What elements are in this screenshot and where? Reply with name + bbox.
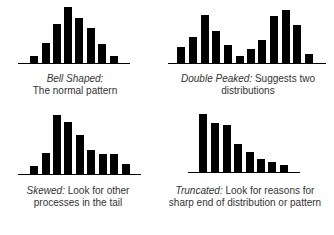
histogram-bar xyxy=(257,159,265,172)
caption-desc: Look for other xyxy=(65,185,129,196)
caption-term: Double Peaked: xyxy=(181,73,252,84)
caption-desc: Suggests two xyxy=(252,73,315,84)
histogram-bar xyxy=(122,164,130,174)
histogram-bar xyxy=(42,43,50,63)
histogram-bar xyxy=(30,56,38,63)
truncated-histogram xyxy=(188,114,300,173)
histogram-bar xyxy=(305,54,313,63)
histogram-bar xyxy=(282,10,290,63)
histogram-bar xyxy=(211,123,219,172)
skewed-caption: Skewed: Look for other processes in the … xyxy=(14,185,142,209)
caption-line2: distributions xyxy=(166,85,330,97)
truncated-caption: Truncated: Look for reasons for sharp en… xyxy=(156,185,334,209)
histogram-bar xyxy=(87,28,95,63)
histogram-bar xyxy=(234,144,242,172)
histogram-bar xyxy=(258,40,266,63)
histogram-bar xyxy=(293,25,301,63)
histogram-bar xyxy=(98,44,106,63)
histogram-bar xyxy=(199,114,207,172)
histogram-bar xyxy=(212,31,220,63)
histogram-bar xyxy=(246,152,254,172)
caption-line2: sharp end of distribution or pattern xyxy=(156,197,334,209)
bell-shaped-caption: Bell Shaped: The normal pattern xyxy=(14,73,136,97)
histogram-bar xyxy=(64,122,72,174)
skewed-histogram xyxy=(18,115,141,175)
caption-desc: Look for reasons for xyxy=(223,185,315,196)
histogram-bar xyxy=(177,47,185,63)
caption-term: Bell Shaped: xyxy=(47,73,104,84)
histogram-bar xyxy=(75,18,83,63)
caption-line2: The normal pattern xyxy=(14,85,136,97)
histogram-bar xyxy=(42,153,50,174)
histogram-bar xyxy=(110,154,118,174)
histogram-bar xyxy=(280,165,288,172)
histogram-bar xyxy=(270,16,278,63)
histogram-bar xyxy=(53,115,61,174)
histogram-bar xyxy=(53,24,61,63)
histogram-bar xyxy=(99,154,107,174)
histogram-bar xyxy=(64,7,72,63)
caption-term: Truncated: xyxy=(176,185,223,196)
histogram-bar xyxy=(189,37,197,63)
histogram-bar xyxy=(30,166,38,174)
histogram-bar xyxy=(247,49,255,63)
histogram-bar xyxy=(87,150,95,174)
histogram-bar xyxy=(223,125,231,172)
histogram-bar xyxy=(110,56,118,63)
caption-line2: processes in the tail xyxy=(14,197,142,209)
caption-term: Skewed: xyxy=(27,185,65,196)
histogram-bar xyxy=(268,162,276,172)
histogram-bar xyxy=(76,135,84,174)
bell-shaped-histogram xyxy=(18,7,130,64)
histogram-bar xyxy=(236,56,244,63)
double-peaked-histogram xyxy=(168,10,326,64)
histogram-bar xyxy=(224,45,232,63)
double-peaked-caption: Double Peaked: Suggests two distribution… xyxy=(166,73,330,97)
histogram-bar xyxy=(201,15,209,63)
